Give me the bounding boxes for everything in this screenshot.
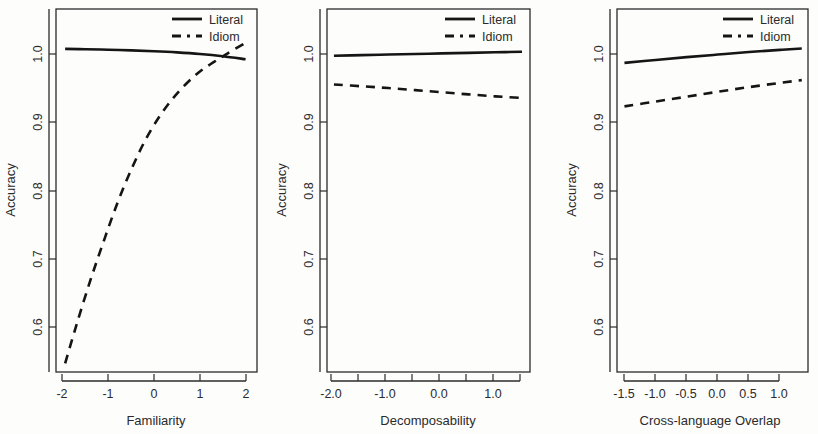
x-tick-label: 0 xyxy=(151,387,158,401)
x-axis-title: Familiarity xyxy=(126,413,186,428)
x-tick-label: -0.5 xyxy=(675,387,697,401)
legend-label-idiom: Idiom xyxy=(209,30,240,44)
panel-2-canvas: 1.0 0.9 0.8 0.7 0.6 Accuracy -2.0 - xyxy=(272,0,545,434)
panel-3-canvas: 1.0 0.9 0.8 0.7 0.6 Accuracy -1.5 -1.0 -… xyxy=(545,0,818,434)
y-axis-ticks xyxy=(610,9,617,372)
y-axis-title: Accuracy xyxy=(274,163,289,217)
legend-label-literal: Literal xyxy=(482,13,516,27)
panel-1-canvas: 1.0 0.9 0.8 0.7 0.6 Accuracy -2 -1 0 xyxy=(0,0,272,434)
y-axis-ticks xyxy=(320,9,327,372)
panel-cross-language-overlap: 1.0 0.9 0.8 0.7 0.6 Accuracy -1.5 -1.0 -… xyxy=(545,0,818,434)
legend: Literal Idiom xyxy=(723,13,794,44)
y-tick-label: 1.0 xyxy=(31,45,45,62)
x-tick-label: 1.0 xyxy=(770,387,787,401)
plot-box xyxy=(617,9,808,372)
x-axis-title: Decomposability xyxy=(380,413,476,428)
x-tick-label: -1.0 xyxy=(374,387,396,401)
x-axis-ticks xyxy=(331,374,520,381)
x-tick-label: -1.5 xyxy=(613,387,635,401)
y-tick-label: 0.6 xyxy=(31,318,45,335)
series-line-literal xyxy=(334,52,522,56)
y-axis-ticks xyxy=(49,9,56,372)
x-tick-label: -2.0 xyxy=(320,387,342,401)
y-tick-label: 1.0 xyxy=(592,45,606,62)
x-axis-ticks xyxy=(624,374,779,381)
y-tick-label: 0.6 xyxy=(302,318,316,335)
y-tick-label: 0.7 xyxy=(302,250,316,267)
y-tick-label: 0.8 xyxy=(592,182,606,199)
y-tick-label: 0.7 xyxy=(31,250,45,267)
x-axis-ticks xyxy=(62,374,246,381)
legend-label-literal: Literal xyxy=(209,13,243,27)
legend-label-idiom: Idiom xyxy=(760,30,791,44)
panel-familiarity: 1.0 0.9 0.8 0.7 0.6 Accuracy -2 -1 0 xyxy=(0,0,272,434)
x-tick-label: 0.0 xyxy=(430,387,447,401)
series-line-idiom xyxy=(334,84,522,98)
legend-label-literal: Literal xyxy=(760,13,794,27)
plot-box xyxy=(327,9,530,372)
y-tick-label: 0.7 xyxy=(592,250,606,267)
y-tick-label: 1.0 xyxy=(302,45,316,62)
x-tick-label: 0.5 xyxy=(739,387,756,401)
x-tick-label: -2 xyxy=(56,387,67,401)
figure-root: 1.0 0.9 0.8 0.7 0.6 Accuracy -2 -1 0 xyxy=(0,0,818,434)
plot-box xyxy=(56,9,257,372)
x-tick-label: -1.0 xyxy=(644,387,666,401)
y-tick-label: 0.8 xyxy=(31,182,45,199)
series-line-idiom xyxy=(624,80,801,106)
y-tick-label: 0.6 xyxy=(592,318,606,335)
y-tick-label: 0.9 xyxy=(592,113,606,130)
y-axis-tick-labels: 1.0 0.9 0.8 0.7 0.6 xyxy=(31,45,45,335)
series-line-idiom xyxy=(65,43,245,364)
legend: Literal Idiom xyxy=(172,13,243,44)
y-tick-label: 0.8 xyxy=(302,182,316,199)
y-tick-label: 0.9 xyxy=(302,113,316,130)
y-axis-tick-labels: 1.0 0.9 0.8 0.7 0.6 xyxy=(592,45,606,335)
series-line-literal xyxy=(65,49,245,59)
legend-label-idiom: Idiom xyxy=(482,30,513,44)
x-axis-tick-labels: -2 -1 0 1 2 xyxy=(56,387,249,401)
y-axis-tick-labels: 1.0 0.9 0.8 0.7 0.6 xyxy=(302,45,316,335)
y-axis-title: Accuracy xyxy=(3,163,18,217)
series-line-literal xyxy=(624,49,801,63)
y-axis-title: Accuracy xyxy=(564,163,579,217)
panel-decomposability: 1.0 0.9 0.8 0.7 0.6 Accuracy -2.0 - xyxy=(272,0,545,434)
x-axis-title: Cross-language Overlap xyxy=(640,413,781,428)
y-tick-label: 0.9 xyxy=(31,113,45,130)
x-axis-tick-labels: -1.5 -1.0 -0.5 0.0 0.5 1.0 xyxy=(613,387,788,401)
legend: Literal Idiom xyxy=(445,13,516,44)
x-tick-label: 2 xyxy=(243,387,250,401)
x-tick-label: -1 xyxy=(102,387,113,401)
x-axis-tick-labels: -2.0 -1.0 0.0 1.0 xyxy=(320,387,502,401)
x-tick-label: 1.0 xyxy=(484,387,501,401)
x-tick-label: 1 xyxy=(197,387,204,401)
x-tick-label: 0.0 xyxy=(708,387,725,401)
